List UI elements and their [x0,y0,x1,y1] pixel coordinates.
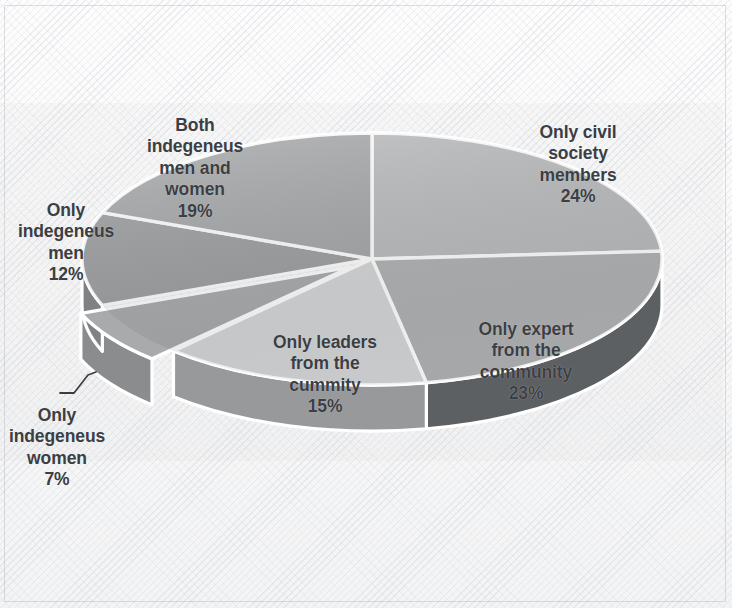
pie-slices [60,133,662,431]
pie-chart-graphic [0,0,732,608]
chart-canvas: Both indegeneus men and women 19% Only i… [0,0,732,608]
leader-line-women [60,372,96,393]
